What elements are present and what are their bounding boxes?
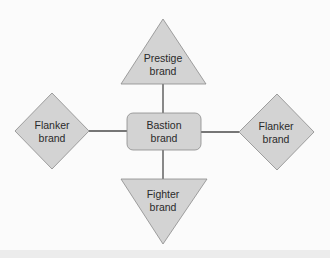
- prestige-brand-line1: Prestige: [133, 52, 193, 65]
- flanker-brand-left-line2: brand: [22, 132, 82, 145]
- bottom-border-band: [0, 250, 330, 258]
- bastion-brand-line2: brand: [134, 132, 194, 145]
- bastion-brand-line1: Bastion: [134, 119, 194, 132]
- flanker-brand-left-line1: Flanker: [22, 119, 82, 132]
- prestige-brand-label: Prestige brand: [133, 52, 193, 78]
- fighter-brand-line2: brand: [133, 201, 193, 214]
- fighter-brand-line1: Fighter: [133, 188, 193, 201]
- prestige-brand-line2: brand: [133, 65, 193, 78]
- bastion-brand-label: Bastion brand: [134, 119, 194, 145]
- flanker-brand-right-line2: brand: [246, 133, 306, 146]
- flanker-brand-left-label: Flanker brand: [22, 119, 82, 145]
- flanker-brand-right-line1: Flanker: [246, 120, 306, 133]
- fighter-brand-label: Fighter brand: [133, 188, 193, 214]
- flanker-brand-right-label: Flanker brand: [246, 120, 306, 146]
